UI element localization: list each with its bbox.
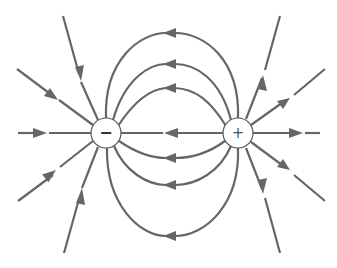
- arrow-left-icon: [163, 59, 176, 69]
- negative-charge: −: [91, 118, 121, 148]
- arrow-left-icon: [164, 128, 178, 138]
- arrow-left-icon: [163, 153, 176, 163]
- arrow-down-right-icon: [277, 159, 290, 170]
- top-arc-inner: [118, 88, 226, 126]
- arrow-down-icon: [258, 178, 267, 194]
- top-arc-middle: [113, 64, 231, 120]
- arrow-up-icon: [76, 188, 85, 205]
- bottom-arc-middle: [114, 146, 231, 185]
- arrow-up-right-icon: [277, 98, 290, 109]
- top-arc-outer: [106, 33, 238, 118]
- arrow-left-icon: [163, 231, 176, 241]
- bottom-field-arcs: [107, 141, 238, 241]
- negative-sign: −: [99, 123, 112, 142]
- dipole-field-diagram: − +: [0, 0, 337, 268]
- arrow-left-icon: [163, 180, 176, 190]
- negative-radial-lines: [17, 16, 98, 253]
- positive-radial-lines: [246, 16, 325, 253]
- top-field-arcs: [106, 28, 238, 126]
- arrow-down-icon: [75, 65, 84, 81]
- arrow-left-icon: [163, 83, 176, 93]
- positive-charge: +: [223, 118, 253, 148]
- arrow-left-icon: [163, 28, 176, 38]
- positive-sign: +: [232, 124, 245, 142]
- arrow-right-icon: [289, 128, 303, 138]
- arrow-right-icon: [33, 128, 47, 138]
- axis-field-line: [18, 128, 320, 138]
